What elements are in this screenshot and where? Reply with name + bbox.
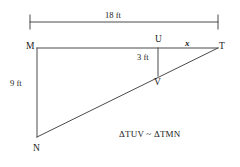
diagram-canvas: [0, 0, 240, 167]
measure-label-mn-9ft: 9 ft: [10, 78, 22, 88]
vertex-label-n: N: [33, 143, 40, 153]
vertex-label-m: M: [26, 41, 34, 51]
vertex-label-u: U: [155, 34, 162, 44]
measure-label-uv-3ft: 3 ft: [136, 52, 150, 62]
vertex-label-v: V: [154, 77, 161, 87]
similarity-statement: ΔTUV ~ ΔTMN: [119, 129, 180, 139]
segment-nt: [37, 48, 218, 137]
dimension-label-18ft: 18 ft: [104, 10, 122, 20]
vertex-label-t: T: [219, 41, 225, 51]
geometry-diagram: 18 ft M U T V N 9 ft 3 ft x ΔTUV ~ ΔTMN: [0, 0, 240, 167]
measure-label-ut-x: x: [185, 38, 190, 48]
